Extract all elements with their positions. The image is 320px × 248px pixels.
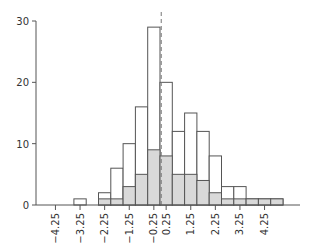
- y-tick-label: 0: [23, 200, 29, 211]
- subset-bar: [234, 199, 246, 205]
- y-tick-label: 30: [16, 16, 29, 27]
- subset-bar: [271, 199, 283, 205]
- subset-bar: [197, 180, 209, 205]
- subset-bar: [99, 199, 111, 205]
- subset-bar: [160, 156, 172, 205]
- x-tick-label: 0.25: [161, 213, 172, 235]
- subset-bar: [135, 174, 147, 205]
- subset-bar: [148, 150, 160, 205]
- x-tick-label: −2.25: [99, 213, 110, 244]
- x-tick-label: −3.25: [75, 213, 86, 244]
- subset-bar: [258, 199, 270, 205]
- subset-bar: [209, 193, 221, 205]
- histogram-chart: 0102030 −4.25−3.25−2.25−1.25−0.250.251.2…: [0, 0, 320, 248]
- subset-bar: [172, 174, 184, 205]
- y-tick-label: 10: [16, 139, 29, 150]
- x-tick-label: −4.25: [50, 213, 61, 244]
- total-bar: [74, 199, 86, 205]
- x-tick-label: −0.25: [148, 213, 159, 244]
- x-tick-label: 2.25: [210, 213, 221, 235]
- subset-bar: [123, 187, 135, 205]
- subset-bar: [185, 174, 197, 205]
- x-tick-label: −1.25: [124, 213, 135, 244]
- subset-bar: [111, 199, 123, 205]
- subset-bar: [222, 199, 234, 205]
- y-tick-label: 20: [16, 77, 29, 88]
- subset-bar: [246, 199, 258, 205]
- y-axis: 0102030: [16, 16, 36, 211]
- x-axis: −4.25−3.25−2.25−1.25−0.250.251.252.253.2…: [36, 205, 300, 244]
- x-tick-label: 3.25: [234, 213, 245, 235]
- x-tick-label: 4.25: [259, 213, 270, 235]
- x-tick-label: 1.25: [185, 213, 196, 235]
